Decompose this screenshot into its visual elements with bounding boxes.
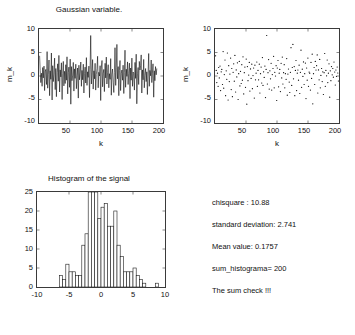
signal-xlabel: k	[38, 139, 164, 148]
scatter-ytick-10: 10	[186, 25, 211, 33]
signal-plot-title: Gaussian variable.	[0, 5, 178, 14]
signal-ytick-0: 0	[10, 71, 35, 79]
scatter-inner-ticks	[215, 29, 339, 123]
stat-sum-check-message: The sum check !!!	[212, 286, 352, 295]
signal-xtick-200: 200	[149, 127, 169, 135]
scatter-ytick-0: 0	[186, 71, 211, 79]
signal-polyline	[40, 36, 157, 105]
statistics-panel: chisquare : 10.88 standard deviation: 2.…	[212, 198, 352, 308]
histogram-ytick-0: 0	[8, 283, 33, 291]
signal-xtick-100: 100	[87, 127, 107, 135]
stat-standard-deviation: standard deviation: 2.741	[212, 220, 352, 229]
stat-sum-histograma: sum_histograma= 200	[212, 264, 352, 273]
signal-ytick-neg5: -5	[10, 94, 35, 102]
signal-ytick-5: 5	[10, 48, 35, 56]
signal-trace-svg	[39, 29, 163, 123]
histogram-xtick-neg5: -5	[58, 291, 80, 299]
panel-gaussian-scatter: 10 5 0 -5 -10 m_k	[178, 0, 355, 168]
scatter-xlabel: k	[214, 139, 340, 148]
stat-mean-value: Mean value: 0.1757	[212, 242, 352, 251]
signal-xtick-50: 50	[56, 127, 76, 135]
histogram-xtick-neg10: -10	[26, 291, 48, 299]
scatter-ytick-5: 5	[186, 48, 211, 56]
histogram-ytick-10: 10	[8, 245, 33, 253]
signal-xtick-150: 150	[118, 127, 138, 135]
histogram-xtick-10: 10	[154, 291, 176, 299]
scatter-xtick-100: 100	[263, 127, 283, 135]
scatter-points-svg	[215, 29, 339, 123]
signal-ytick-neg10: -10	[5, 117, 35, 125]
histogram-ytick-5: 5	[8, 264, 33, 272]
panel-gaussian-signal: Gaussian variable. 10 5 0 -5 -10 m_k	[0, 0, 178, 168]
histogram-ytick-15: 15	[8, 226, 33, 234]
histogram-bars-svg	[37, 192, 165, 287]
stat-chisquare: chisquare : 10.88	[212, 198, 352, 207]
scatter-ytick-neg5: -5	[186, 94, 211, 102]
scatter-axes	[214, 28, 340, 124]
matlab-figure: Gaussian variable. 10 5 0 -5 -10 m_k	[0, 0, 355, 335]
scatter-xtick-150: 150	[294, 127, 314, 135]
histogram-xtick-5: 5	[122, 291, 144, 299]
scatter-ytick-neg10: -10	[181, 117, 211, 125]
histogram-axes	[36, 191, 166, 288]
histogram-bar-group	[59, 192, 158, 287]
scatter-xtick-200: 200	[325, 127, 345, 135]
histogram-ytick-20: 20	[8, 207, 33, 215]
scatter-marker-group	[215, 35, 339, 105]
scatter-xtick-50: 50	[232, 127, 252, 135]
scatter-ylabel: m_k	[181, 60, 190, 90]
signal-axes	[38, 28, 164, 124]
histogram-title: Histogram of the signal	[0, 174, 178, 183]
panel-histogram: Histogram of the signal 25 20 15 10 5 0	[0, 168, 178, 335]
signal-ylabel: m_k	[5, 60, 14, 90]
signal-ytick-10: 10	[10, 25, 35, 33]
histogram-ytick-25: 25	[8, 188, 33, 196]
histogram-xtick-0: 0	[90, 291, 112, 299]
